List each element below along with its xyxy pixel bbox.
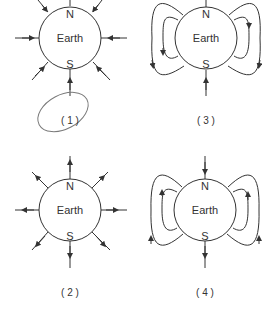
earth-label: Earth (57, 32, 83, 44)
diagram-label: ( 4 ) (196, 287, 214, 298)
earth-label: Earth (193, 32, 219, 44)
south-pole-label: S (202, 58, 209, 70)
diagram-label: ( 2 ) (61, 287, 79, 298)
diagram-4: Earth N S ( 4 ) (151, 156, 259, 298)
diagram-2: Earth N S ( 2 ) (15, 156, 127, 298)
south-pole-label: S (66, 58, 73, 70)
earth-label: Earth (192, 204, 218, 216)
south-pole-label: S (201, 230, 208, 242)
north-pole-label: N (201, 180, 209, 192)
hand-drawn-circle-annotation (31, 84, 95, 139)
north-pole-label: N (202, 8, 210, 20)
north-pole-label: N (66, 8, 74, 20)
diagram-label: ( 1 ) (61, 115, 79, 126)
south-pole-label: S (66, 230, 73, 242)
earth-label: Earth (57, 204, 83, 216)
north-pole-label: N (66, 180, 74, 192)
diagram-3: Earth N S ( 3 ) (152, 0, 260, 126)
diagram-1: Earth N S ( 1 ) (15, 0, 127, 140)
diagram-label: ( 3 ) (197, 115, 215, 126)
